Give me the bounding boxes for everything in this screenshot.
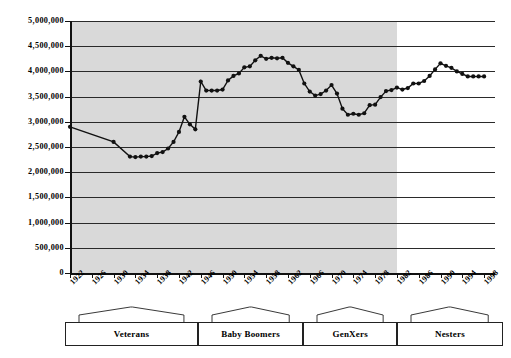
data-point-marker xyxy=(111,140,115,144)
data-point-marker xyxy=(417,81,421,85)
y-axis-tick xyxy=(65,197,70,198)
generation-box: GenXers xyxy=(303,322,397,346)
data-point-marker xyxy=(210,88,214,92)
births-series xyxy=(70,21,505,283)
data-point-marker xyxy=(270,56,274,60)
data-point-marker xyxy=(406,86,410,90)
data-point-marker xyxy=(444,64,448,68)
data-point-marker xyxy=(449,66,453,70)
generation-box: Nesters xyxy=(397,322,502,346)
data-point-marker xyxy=(428,74,432,78)
y-axis-label: 2,000,000 xyxy=(2,167,64,176)
y-axis-tick xyxy=(65,172,70,173)
data-point-marker xyxy=(215,88,219,92)
y-axis-label: 0 xyxy=(2,268,64,277)
data-point-marker xyxy=(150,154,154,158)
data-point-marker xyxy=(346,113,350,117)
data-point-marker xyxy=(373,103,377,107)
y-axis-label: 5,000,000 xyxy=(2,16,64,25)
data-point-marker xyxy=(144,154,148,158)
data-point-marker xyxy=(161,150,165,154)
data-point-marker xyxy=(362,111,366,115)
data-point-marker xyxy=(466,74,470,78)
data-point-marker xyxy=(182,115,186,119)
generation-bracket xyxy=(303,302,397,323)
data-point-marker xyxy=(253,58,257,62)
data-point-marker xyxy=(471,74,475,78)
data-point-marker xyxy=(139,154,143,158)
data-point-marker xyxy=(259,54,263,58)
generation-box: Veterans xyxy=(65,322,198,346)
data-point-marker xyxy=(433,67,437,71)
data-point-marker xyxy=(133,155,137,159)
data-point-marker xyxy=(291,64,295,68)
data-point-marker xyxy=(384,89,388,93)
data-point-marker xyxy=(378,95,382,99)
y-axis-label: 3,500,000 xyxy=(2,92,64,101)
data-point-marker xyxy=(357,113,361,117)
data-point-marker xyxy=(275,56,279,60)
generation-box: Baby Boomers xyxy=(198,322,303,346)
data-point-marker xyxy=(226,78,230,82)
data-point-marker xyxy=(166,146,170,150)
generation-bracket xyxy=(397,302,502,323)
data-point-marker xyxy=(455,69,459,73)
generation-bracket xyxy=(65,302,198,323)
data-point-marker xyxy=(204,88,208,92)
data-point-marker xyxy=(220,87,224,91)
chart-figure: 5,000,0004,500,0004,000,0003,500,0003,00… xyxy=(0,0,511,358)
generation-bracket xyxy=(198,302,303,323)
generation-bands: VeteransBaby BoomersGenXersNesters xyxy=(0,300,511,358)
y-axis-label: 500,000 xyxy=(2,243,64,252)
data-point-marker xyxy=(302,81,306,85)
data-point-marker xyxy=(155,151,159,155)
data-point-marker xyxy=(177,130,181,134)
y-axis-tick xyxy=(65,122,70,123)
data-point-marker xyxy=(286,61,290,65)
y-axis-label: 4,000,000 xyxy=(2,66,64,75)
data-point-marker xyxy=(297,68,301,72)
data-point-marker xyxy=(368,103,372,107)
data-point-marker xyxy=(477,74,481,78)
data-point-marker xyxy=(231,74,235,78)
y-axis-tick xyxy=(65,147,70,148)
y-axis-label: 1,000,000 xyxy=(2,218,64,227)
generation-label: GenXers xyxy=(333,329,368,339)
data-point-marker xyxy=(128,154,132,158)
y-axis-label: 2,500,000 xyxy=(2,142,64,151)
data-point-marker xyxy=(482,74,486,78)
data-point-marker xyxy=(242,65,246,69)
y-axis-tick xyxy=(65,71,70,72)
data-point-marker xyxy=(422,79,426,83)
data-point-marker xyxy=(438,61,442,65)
series-line xyxy=(70,56,484,157)
data-point-marker xyxy=(389,88,393,92)
data-point-marker xyxy=(329,83,333,87)
data-point-marker xyxy=(460,72,464,76)
data-point-marker xyxy=(264,57,268,61)
generation-label: Veterans xyxy=(114,329,149,339)
y-axis-label: 1,500,000 xyxy=(2,192,64,201)
data-point-marker xyxy=(395,85,399,89)
data-point-marker xyxy=(248,64,252,68)
data-point-marker xyxy=(280,56,284,60)
data-point-marker xyxy=(308,89,312,93)
y-axis-tick xyxy=(65,223,70,224)
data-point-marker xyxy=(324,88,328,92)
y-axis-tick xyxy=(65,97,70,98)
data-point-marker xyxy=(411,81,415,85)
data-point-marker xyxy=(351,112,355,116)
data-point-marker xyxy=(171,140,175,144)
line-chart: 5,000,0004,500,0004,000,0003,500,0003,00… xyxy=(0,0,511,300)
data-point-marker xyxy=(188,122,192,126)
plot-area xyxy=(70,21,495,273)
data-point-marker xyxy=(237,71,241,75)
data-point-marker xyxy=(400,87,404,91)
y-axis-label: 4,500,000 xyxy=(2,41,64,50)
data-point-marker xyxy=(193,127,197,131)
y-axis-tick xyxy=(65,21,70,22)
y-axis-tick xyxy=(65,248,70,249)
y-axis-label: 3,000,000 xyxy=(2,117,64,126)
generation-label: Baby Boomers xyxy=(221,329,280,339)
y-axis xyxy=(70,21,72,275)
